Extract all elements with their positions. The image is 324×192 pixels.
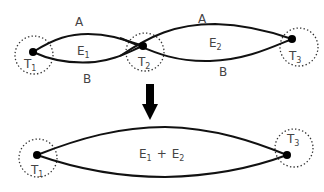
bottom-graph: E1+E2 T1 T3 xyxy=(19,127,313,179)
edge-label-a2: A xyxy=(198,12,207,26)
node-label-t1-top: T1 xyxy=(23,57,36,73)
edge-a-e2 xyxy=(120,24,292,56)
node-t3-bottom xyxy=(283,151,291,159)
node-t3-top xyxy=(288,35,296,43)
graph-merge-diagram: A B E1 A B E2 T1 T2 T3 E1+E2 T1 T3 xyxy=(0,0,324,192)
node-t1-bottom xyxy=(33,151,41,159)
node-label-t1-bottom: T1 xyxy=(30,163,43,179)
edge-label-b1: B xyxy=(83,72,91,86)
node-t2-top xyxy=(139,42,147,50)
edge-label-b2: B xyxy=(219,65,227,79)
top-graph: A B E1 A B E2 T1 T2 T3 xyxy=(15,12,318,86)
node-label-t3-bottom: T3 xyxy=(286,132,299,148)
region-label-merged: E1+E2 xyxy=(139,147,184,163)
node-label-t3-top: T3 xyxy=(288,49,301,65)
down-arrow-icon xyxy=(142,84,158,120)
edge-label-a1: A xyxy=(75,15,84,29)
node-t1-top xyxy=(29,48,37,56)
region-label-e1: E1 xyxy=(77,44,90,60)
node-label-t2-top: T2 xyxy=(137,55,150,71)
region-label-e2: E2 xyxy=(209,36,222,52)
